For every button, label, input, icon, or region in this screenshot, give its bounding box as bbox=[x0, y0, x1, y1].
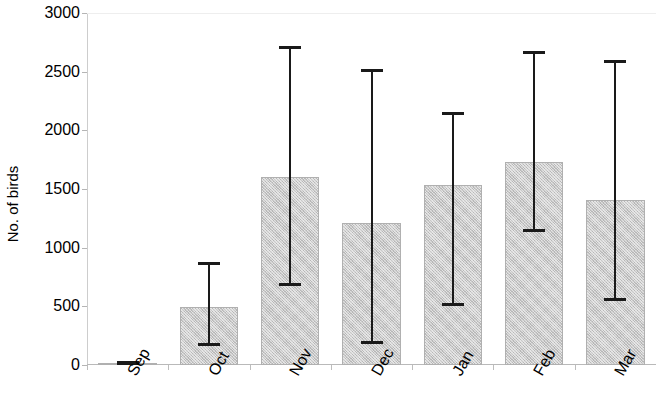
error-bar-feb bbox=[523, 51, 545, 232]
error-bar-lower-cap bbox=[361, 341, 383, 344]
error-bar-mar bbox=[604, 60, 626, 301]
y-axis-tick-mark bbox=[82, 189, 87, 190]
y-axis-tick-label: 0 bbox=[22, 356, 80, 374]
bar-chart: No. of birds 050010001500200025003000 Se… bbox=[0, 0, 656, 408]
y-axis-tick-label: 1000 bbox=[22, 239, 80, 257]
x-axis-tick-labels: SepOctNovDecJanFebMar bbox=[87, 370, 656, 408]
y-axis-tick-label: 2000 bbox=[22, 121, 80, 139]
error-bar-stem bbox=[452, 112, 454, 306]
plot-area bbox=[87, 13, 656, 365]
y-axis-tick-mark bbox=[82, 130, 87, 131]
y-axis-tick-mark bbox=[82, 13, 87, 14]
error-bar-jan bbox=[442, 112, 464, 306]
error-bar-upper-cap bbox=[361, 69, 383, 72]
error-bar-upper-cap bbox=[279, 46, 301, 49]
error-bar-stem bbox=[533, 51, 535, 232]
error-bar-oct bbox=[198, 262, 220, 346]
y-axis-tick-mark bbox=[82, 306, 87, 307]
y-axis-tick-label: 3000 bbox=[22, 4, 80, 22]
y-axis-title: No. of birds bbox=[0, 0, 24, 408]
error-bar-upper-cap bbox=[198, 262, 220, 265]
y-axis-tick-labels: 050010001500200025003000 bbox=[22, 0, 80, 408]
error-bar-upper-cap bbox=[604, 60, 626, 63]
y-axis-tick-label: 500 bbox=[22, 297, 80, 315]
error-bar-upper-cap bbox=[442, 112, 464, 115]
error-bar-lower-cap bbox=[604, 298, 626, 301]
error-bar-stem bbox=[371, 69, 373, 344]
error-bar-stem bbox=[289, 46, 291, 287]
error-bar-lower-cap bbox=[198, 343, 220, 346]
y-axis-tick-mark bbox=[82, 248, 87, 249]
error-bar-lower-cap bbox=[442, 303, 464, 306]
y-axis-line bbox=[87, 13, 88, 365]
y-axis-tick-label: 1500 bbox=[22, 180, 80, 198]
error-bar-nov bbox=[279, 46, 301, 287]
error-bar-lower-cap bbox=[523, 229, 545, 232]
y-axis-tick-mark bbox=[82, 72, 87, 73]
gridline bbox=[87, 13, 656, 14]
error-bar-stem bbox=[614, 60, 616, 301]
error-bar-upper-cap bbox=[523, 51, 545, 54]
y-axis-tick-label: 2500 bbox=[22, 63, 80, 81]
error-bar-lower-cap bbox=[279, 283, 301, 286]
error-bar-dec bbox=[361, 69, 383, 344]
error-bar-stem bbox=[208, 262, 210, 346]
